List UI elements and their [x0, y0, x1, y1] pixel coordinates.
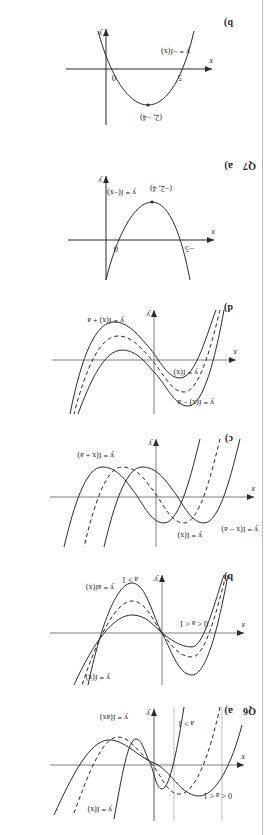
axis-label-y-q6a: y — [146, 709, 151, 718]
curve-label-q6c-fxma: y = f(x − a) — [221, 525, 258, 534]
condition-label-q6a-small: 0 < a < 1 — [203, 791, 232, 800]
figure-q7b: x y 0 5 (2, −4) y = −f(x) — [56, 23, 216, 131]
axis-label-x-q6d: x — [233, 348, 238, 357]
tick-label-q7b-xint: 5 — [178, 73, 182, 83]
condition-label-q6b-large: a > 1 — [122, 575, 138, 584]
panel-label-q7b-part: b) — [224, 18, 233, 29]
axis-label-x-q6b: x — [241, 621, 246, 630]
panel-label-q7-question: Q7 — [243, 161, 256, 172]
figure-q7a: x y 0 −5 (−2, 4) y = f(−x) — [58, 170, 218, 282]
figure-q6a: x y 0 < a < 1 a > 1 y = f(x) y = f(ax) — [35, 707, 250, 825]
axis-label-y-q7a: y — [98, 176, 103, 185]
figure-q6b: x y 0 < a < 1 a > 1 y = f(x) y = af(x) — [35, 573, 250, 687]
curve-label-q6b-f: y = f(x) — [85, 673, 110, 682]
axis-label-y-q6c: y — [148, 439, 153, 448]
figure-panel-q7b: b) x y 0 5 (2, −4) y = −f(x) — [0, 0, 278, 145]
axis-label-x-q7b: x — [209, 57, 214, 66]
tick-label-q7b-origin: 0 — [112, 73, 116, 83]
axis-label-x-q6c: x — [251, 485, 256, 494]
curve-label-q6a-f: y = f(x) — [87, 805, 112, 814]
figure-q6d: x y y = f(x) − a y = f(x) y = f(x) + a — [37, 308, 242, 416]
point-label-q7a-vertex: (−2, 4) — [150, 184, 172, 193]
axis-label-y-q6d: y — [146, 310, 151, 319]
tick-label-q7a-xint: −5 — [185, 244, 194, 254]
curve-label-q6d-fma: y = f(x) − a — [177, 398, 214, 407]
figure-panel-q7a: Q7 a) x y 0 −5 (−2, 4) y = f(−x) — [0, 145, 278, 290]
figure-panel-q6b: b) x y 0 < a < 1 a > 1 y = f(x) — [0, 555, 278, 695]
condition-label-q6b-small: 0 < a < 1 — [179, 619, 208, 628]
curve-label-q6d-fpa: y = f(x) + a — [87, 316, 124, 325]
axis-label-x-q6a: x — [241, 753, 246, 762]
figure-q6c: x y y = f(x − a) y = f(x) y = f(x + a) — [30, 437, 260, 549]
curve-label-q6c-fxpa: y = f(x + a) — [77, 451, 114, 460]
curve-label-q6d-f: y = f(x) — [173, 368, 198, 377]
scanned-page: Q6 a) x y 0 < — [0, 0, 278, 835]
tick-label-q7a-origin: 0 — [114, 244, 118, 254]
curve-label-q6c-f: y = f(x) — [177, 531, 202, 540]
curve-label-q6b-afx: y = af(x) — [86, 583, 114, 592]
figure-panel-q6a: Q6 a) x y 0 < — [0, 695, 278, 835]
point-label-q7b-vertex: (2, −4) — [140, 113, 162, 122]
figure-panel-q6d: d) x y y = f(x) − a y = f(x) y = f(x) — [0, 290, 278, 420]
vertex-point-q7a — [150, 200, 153, 203]
axis-label-x-q7a: x — [211, 228, 216, 237]
curve-label-q7a-fmx: y = f(−x) — [107, 188, 136, 197]
curve-label-q7b-mfx: y = −f(x) — [161, 47, 190, 56]
panel-label-q7a-part: a) — [224, 161, 233, 172]
curve-label-q6a-fax: y = f(ax) — [100, 713, 128, 722]
figure-panel-q6c: c) x y y = f(x − a) y = f(x) y = f(x — [0, 420, 278, 555]
axis-label-y-q6b: y — [154, 575, 159, 584]
vertex-point-q7b — [146, 103, 149, 106]
condition-label-q6a-large: a > 1 — [178, 719, 194, 728]
